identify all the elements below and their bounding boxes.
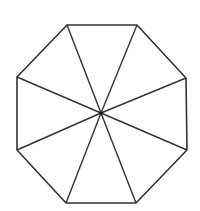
octagon-diagram xyxy=(0,0,200,211)
center-point xyxy=(99,111,102,114)
diagram-canvas xyxy=(0,0,200,211)
spoke-line-1 xyxy=(67,25,101,113)
spoke-line-8 xyxy=(17,77,101,113)
